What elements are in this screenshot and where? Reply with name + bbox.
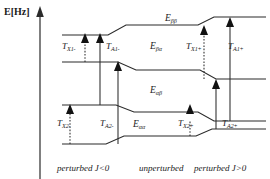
zone-caption-unperturbed: unperturbed bbox=[139, 163, 184, 173]
level-label-E-ab: Eαβ bbox=[150, 86, 162, 96]
level-line-E-aa bbox=[62, 129, 266, 144]
transition-label-T-X2-plus: TX2+ bbox=[178, 119, 194, 128]
transition-label-T-X1-plus: TX1+ bbox=[186, 42, 202, 51]
level-line-E-ba bbox=[62, 62, 266, 79]
level-label-E-aa: Eαα bbox=[133, 120, 145, 130]
transition-arrow-T-A2-minus bbox=[114, 61, 122, 144]
energy-axis bbox=[36, 6, 44, 179]
transition-label-T-X2-minus: TX2- bbox=[57, 119, 71, 128]
transition-label-T-A1-plus: TA1+ bbox=[228, 42, 244, 51]
transition-arrow-T-A1-minus bbox=[96, 33, 104, 105]
level-label-E-bb: Eββ bbox=[165, 14, 177, 24]
axis-label-energy: E[Hz] bbox=[4, 6, 30, 17]
zone-caption-perturbed-negative: perturbed J<0 bbox=[57, 163, 109, 173]
transition-label-T-A2-plus: TA2+ bbox=[222, 119, 238, 128]
transition-label-T-A1-minus: TA1- bbox=[106, 42, 120, 51]
transition-label-T-X1-minus: TX1- bbox=[62, 42, 76, 51]
transition-arrow-T-X1-minus bbox=[81, 33, 89, 62]
transition-arrow-T-A1-plus bbox=[226, 17, 234, 121]
level-line-E-bb bbox=[62, 17, 266, 35]
energy-level-diagram: E[Hz] Eββ Eβα Eαβ Eαα TX1- TA1- TX1+ TA1… bbox=[0, 0, 270, 179]
diagram-canvas bbox=[0, 0, 270, 179]
transition-label-T-A2-minus: TA2- bbox=[100, 119, 114, 128]
zone-caption-perturbed-positive: perturbed J>0 bbox=[194, 163, 246, 173]
level-label-E-ba: Eβα bbox=[150, 42, 162, 52]
